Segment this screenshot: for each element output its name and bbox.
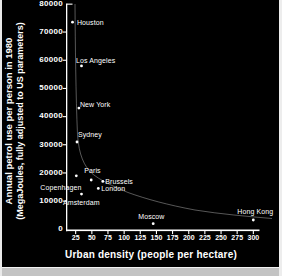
- city-label: Sydney: [78, 131, 102, 138]
- scan-border-bottom: [0, 267, 282, 276]
- y-tick-label: 50000: [22, 84, 63, 92]
- y-tick-label: 70000: [22, 28, 63, 36]
- y-tick-label: 0: [22, 225, 63, 233]
- city-label: New York: [80, 101, 110, 108]
- city-label: Amsterdam: [63, 199, 100, 206]
- y-tick-label: 20000: [22, 169, 63, 177]
- city-label: Copenhagen: [40, 184, 81, 191]
- y-tick-label: 30000: [22, 141, 63, 149]
- city-label: Brussels: [105, 178, 133, 185]
- y-axis-title-line1: Annual petrol use per person in 1980: [3, 4, 14, 238]
- city-label: London: [101, 185, 125, 192]
- scan-border-left: [0, 0, 2, 276]
- y-tick-label: 80000: [22, 0, 63, 8]
- petrol-use-density-chart: 0100002000030000400005000060000700008000…: [0, 0, 282, 276]
- plot-labels: 0100002000030000400005000060000700008000…: [0, 0, 282, 276]
- city-label: Houston: [77, 19, 104, 26]
- city-label: Los Angeles: [76, 57, 115, 64]
- scan-border-right: [279, 0, 282, 276]
- y-axis-title-line2: (MegaJoules, fully adjusted to US parame…: [15, 2, 25, 240]
- city-label: Hong Kong: [237, 208, 273, 215]
- city-label: Moscow: [138, 213, 164, 220]
- x-tick-label: 300: [241, 234, 265, 242]
- y-tick-label: 60000: [22, 56, 63, 64]
- y-tick-label: 40000: [22, 112, 63, 120]
- city-label: Paris: [84, 167, 100, 174]
- y-tick-label: 10000: [22, 197, 63, 205]
- x-axis-title: Urban density (people per hectare): [30, 249, 272, 260]
